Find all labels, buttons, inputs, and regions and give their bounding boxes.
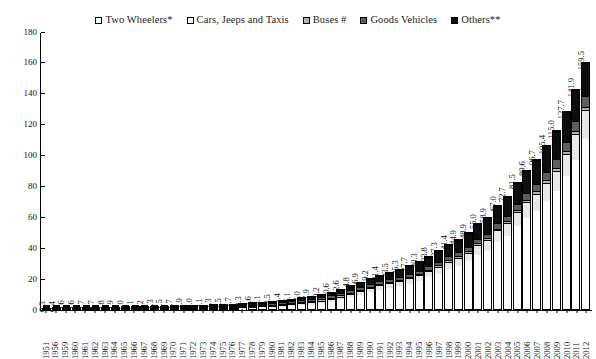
- x-axis-tick-label: 1995: [415, 316, 424, 359]
- bar-column[interactable]: 1.0: [120, 33, 130, 310]
- bar-column[interactable]: 0.6: [71, 33, 81, 310]
- bar-stack[interactable]: 30.3: [415, 261, 424, 310]
- bar-stack[interactable]: 21.4: [375, 275, 384, 310]
- bar-stack[interactable]: 44.9: [454, 239, 463, 310]
- bar-stack[interactable]: 19.2: [366, 278, 375, 310]
- bar-column[interactable]: 6.1: [287, 33, 297, 310]
- bar-column[interactable]: 4.1: [258, 33, 268, 310]
- bar-stack[interactable]: 58.9: [483, 217, 492, 310]
- legend-swatch-two-wheelers: [95, 17, 102, 24]
- bar-column[interactable]: 7.9: [307, 33, 317, 310]
- bar-column[interactable]: 5.4: [277, 33, 287, 310]
- bar-segment-cars-jeeps-taxis: [465, 253, 472, 262]
- x-axis-tick-label: 1984: [307, 316, 316, 359]
- bar-column[interactable]: 0.3: [42, 33, 52, 310]
- bar-stack[interactable]: 37.3: [434, 250, 443, 310]
- bar-column[interactable]: 30.3: [414, 33, 424, 310]
- bar-column[interactable]: 1.5: [160, 33, 170, 310]
- bar-column[interactable]: 9.2: [316, 33, 326, 310]
- bar-stack[interactable]: 41.4: [444, 244, 453, 310]
- bar-column[interactable]: 1.1: [130, 33, 140, 310]
- x-axis-tick: 1972: [188, 313, 198, 359]
- x-axis-tick: 2002: [483, 313, 493, 359]
- bar-column[interactable]: 10.6: [326, 33, 336, 310]
- bar-column[interactable]: 27.7: [404, 33, 414, 310]
- bar-column[interactable]: 0.6: [62, 33, 72, 310]
- bar-value-label: 159.5: [577, 51, 586, 70]
- bar-column[interactable]: 0.4: [52, 33, 62, 310]
- bar-stack[interactable]: 33.8: [424, 256, 433, 310]
- bar-column[interactable]: 3.3: [238, 33, 248, 310]
- bar-column[interactable]: 2.3: [209, 33, 219, 310]
- bar-segment-goods-vehicles: [582, 96, 589, 107]
- bar-column[interactable]: 48.9: [463, 33, 473, 310]
- bar-column[interactable]: 58.9: [483, 33, 493, 310]
- legend-item-cars-jeeps-taxis: Cars, Jeeps and Taxis: [187, 15, 289, 26]
- bar-column[interactable]: 72.7: [502, 33, 512, 310]
- bar-stack[interactable]: 127.7: [562, 111, 571, 310]
- bar-stack[interactable]: 141.9: [571, 89, 580, 310]
- bar-column[interactable]: 16.9: [356, 33, 366, 310]
- bar-stack[interactable]: 105.4: [542, 145, 551, 310]
- bar-column[interactable]: 4.5: [267, 33, 277, 310]
- bar-column[interactable]: 67.0: [493, 33, 503, 310]
- bar-column[interactable]: 159.5: [581, 33, 591, 310]
- bar-column[interactable]: 55.0: [473, 33, 483, 310]
- bar-column[interactable]: 2.5: [218, 33, 228, 310]
- bar-column[interactable]: 1.7: [169, 33, 179, 310]
- bar-column[interactable]: 7.0: [297, 33, 307, 310]
- bar-stack[interactable]: 72.7: [503, 196, 512, 310]
- x-axis-tick: 1994: [405, 313, 415, 359]
- bar-column[interactable]: 0.8: [101, 33, 111, 310]
- bar-column[interactable]: 0.9: [111, 33, 121, 310]
- bar-column[interactable]: 14.8: [346, 33, 356, 310]
- bar-column[interactable]: 89.6: [522, 33, 532, 310]
- bar-stack[interactable]: 159.5: [581, 62, 590, 310]
- bar-column[interactable]: 2.0: [189, 33, 199, 310]
- bar-column[interactable]: 1.3: [150, 33, 160, 310]
- x-axis-tick: 1967: [139, 313, 149, 359]
- bar-column[interactable]: 12.6: [336, 33, 346, 310]
- bar-column[interactable]: 44.9: [453, 33, 463, 310]
- bar-column[interactable]: 1.9: [179, 33, 189, 310]
- bar-stack[interactable]: 48.9: [464, 232, 473, 310]
- bar-value-label: 16.9: [352, 273, 361, 288]
- x-axis-tick-label: 1983: [297, 316, 306, 359]
- legend-label-cars-jeeps-taxis: Cars, Jeeps and Taxis: [197, 15, 289, 26]
- bar-column[interactable]: 115.0: [551, 33, 561, 310]
- bar-stack[interactable]: 27.7: [405, 265, 414, 310]
- bar-column[interactable]: 0.7: [91, 33, 101, 310]
- bar-segment-cars-jeeps-taxis: [523, 202, 530, 217]
- bar-column[interactable]: 33.8: [424, 33, 434, 310]
- bar-stack[interactable]: 115.0: [552, 130, 561, 310]
- bar-segment-cars-jeeps-taxis: [435, 267, 442, 274]
- bar-value-label: 4.5: [264, 295, 273, 306]
- bar-stack[interactable]: 67.0: [493, 205, 502, 310]
- x-axis-tick-mark: [262, 309, 263, 313]
- bar-column[interactable]: 0.7: [81, 33, 91, 310]
- bar-column[interactable]: 2.7: [228, 33, 238, 310]
- bar-column[interactable]: 141.9: [571, 33, 581, 310]
- bar-stack[interactable]: 55.0: [473, 223, 482, 310]
- bar-value-label: 1.9: [175, 299, 184, 310]
- x-axis-tick-mark: [291, 309, 292, 313]
- bar-column[interactable]: 96.7: [532, 33, 542, 310]
- bar-stack[interactable]: 89.6: [522, 170, 531, 310]
- bar-value-label: 10.6: [322, 283, 331, 298]
- bar-column[interactable]: 105.4: [542, 33, 552, 310]
- bar-stack[interactable]: 81.5: [513, 182, 522, 310]
- bar-stack[interactable]: 23.5: [385, 272, 394, 310]
- bar-column[interactable]: 37.3: [434, 33, 444, 310]
- bar-value-label: 96.7: [528, 150, 537, 165]
- bar-stack[interactable]: 16.9: [356, 282, 365, 310]
- bar-segment-two-wheelers: [357, 295, 364, 309]
- bar-stack[interactable]: 96.7: [532, 159, 541, 310]
- bar-column[interactable]: 2.1: [199, 33, 209, 310]
- x-axis-tick: 2009: [552, 313, 562, 359]
- bar-stack[interactable]: 14.8: [346, 285, 355, 310]
- bar-column[interactable]: 127.7: [561, 33, 571, 310]
- bar-stack[interactable]: 25.3: [395, 269, 404, 310]
- bar-column[interactable]: 3.6: [248, 33, 258, 310]
- bar-column[interactable]: 1.2: [140, 33, 150, 310]
- bar-column[interactable]: 41.4: [444, 33, 454, 310]
